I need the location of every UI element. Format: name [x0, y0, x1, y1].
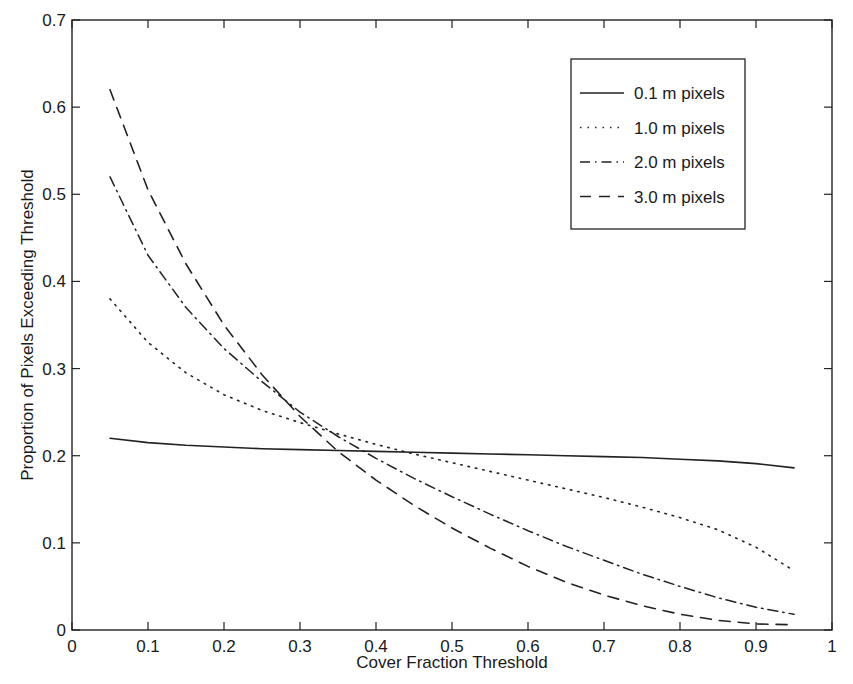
y-tick-label: 0.4 [42, 272, 66, 291]
legend-label: 1.0 m pixels [634, 119, 725, 138]
legend-label: 2.0 m pixels [634, 153, 725, 172]
x-tick-label: 1 [827, 637, 836, 656]
y-tick-label: 0.3 [42, 360, 66, 379]
x-tick-label: 0.9 [744, 637, 768, 656]
y-tick-label: 0.2 [42, 447, 66, 466]
x-tick-label: 0.3 [288, 637, 312, 656]
x-tick-label: 0 [67, 637, 76, 656]
x-tick-label: 0.1 [136, 637, 160, 656]
legend-label: 3.0 m pixels [634, 188, 725, 207]
x-axis-title: Cover Fraction Threshold [356, 653, 548, 672]
y-tick-label: 0 [57, 621, 66, 640]
series-1-0-m-pixels [110, 299, 794, 571]
series-0-1-m-pixels [110, 438, 794, 468]
x-tick-label: 0.7 [592, 637, 616, 656]
legend: 0.1 m pixels1.0 m pixels2.0 m pixels3.0 … [571, 59, 745, 229]
y-axis-title: Proportion of Pixels Exceeding Threshold [18, 169, 37, 481]
y-tick-label: 0.1 [42, 534, 66, 553]
x-tick-label: 0.2 [212, 637, 236, 656]
legend-label: 0.1 m pixels [634, 84, 725, 103]
series-2-0-m-pixels [110, 177, 794, 614]
x-tick-label: 0.8 [668, 637, 692, 656]
line-chart: 00.10.20.30.40.50.60.70.80.9100.10.20.30… [0, 0, 853, 684]
y-tick-label: 0.7 [42, 11, 66, 30]
y-tick-label: 0.5 [42, 185, 66, 204]
y-tick-label: 0.6 [42, 98, 66, 117]
